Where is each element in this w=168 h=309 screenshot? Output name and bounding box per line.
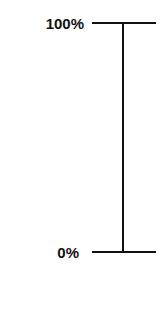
bottom-tick [92,251,156,253]
vertical-line [122,22,124,253]
bottom-label: 0% [0,245,79,261]
top-label: 100% [4,16,84,32]
top-tick [92,22,156,24]
